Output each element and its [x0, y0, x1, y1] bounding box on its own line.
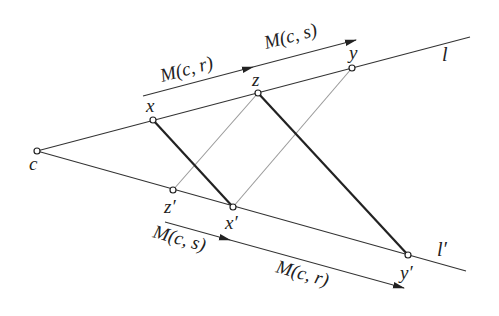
label-y: y — [347, 42, 358, 63]
point-z — [255, 90, 261, 96]
line-l — [37, 37, 470, 151]
line-l-prime — [37, 151, 466, 271]
point-x-prime — [230, 204, 236, 210]
label-z: z — [251, 69, 260, 90]
label-x-prime: x′ — [224, 212, 238, 233]
label-arrow-top-first: M(c, r) — [157, 52, 216, 87]
point-y — [349, 65, 355, 71]
label-c: c — [29, 153, 38, 174]
geometry-diagram: c x z y z′ x′ y′ l l′ M(c, r) M(c, s) M(… — [0, 0, 499, 316]
segment-z-zprime — [173, 93, 258, 190]
point-y-prime — [405, 252, 411, 258]
label-arrow-bottom-second: M(c, r) — [273, 255, 332, 291]
label-arrow-top-second: M(c, s) — [261, 19, 320, 54]
label-line-l-prime: l′ — [437, 238, 448, 260]
label-x: x — [145, 95, 155, 116]
point-z-prime — [170, 187, 176, 193]
label-line-l: l — [442, 43, 448, 65]
point-x — [150, 117, 156, 123]
segment-y-xprime — [233, 68, 352, 207]
segment-z-yprime — [258, 93, 408, 255]
label-y-prime: y′ — [398, 262, 413, 283]
label-z-prime: z′ — [163, 196, 176, 217]
segment-x-xprime — [153, 120, 233, 207]
